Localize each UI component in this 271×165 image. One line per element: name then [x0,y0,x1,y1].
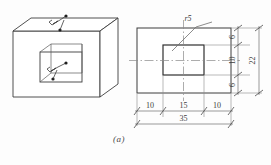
pocket-callout-dot-upper [64,61,67,64]
top-edge-callout-dot-upper [64,14,67,17]
radius-label: r5 [184,14,191,23]
iso-right-face [100,18,118,97]
technical-drawing-canvas: r5 10 15 10 35 [0,0,271,165]
orthographic-front-view: r5 [129,14,240,101]
dim-v-middle: 10 [228,57,237,65]
dim-h-right: 10 [213,101,221,110]
dim-h-middle: 15 [180,101,188,110]
dim-h-overall: 35 [180,114,188,123]
dim-v-bottom: 6 [228,83,237,87]
dim-v-top: 6 [228,35,237,39]
isometric-view [13,14,118,97]
figure-container: r5 10 15 10 35 [0,0,271,165]
dim-h-left: 10 [146,101,154,110]
radius-leader-tail [196,22,212,27]
figure-caption: (a) [113,134,125,144]
dim-v-overall: 22 [248,57,257,65]
iso-pocket-opening [40,52,82,82]
